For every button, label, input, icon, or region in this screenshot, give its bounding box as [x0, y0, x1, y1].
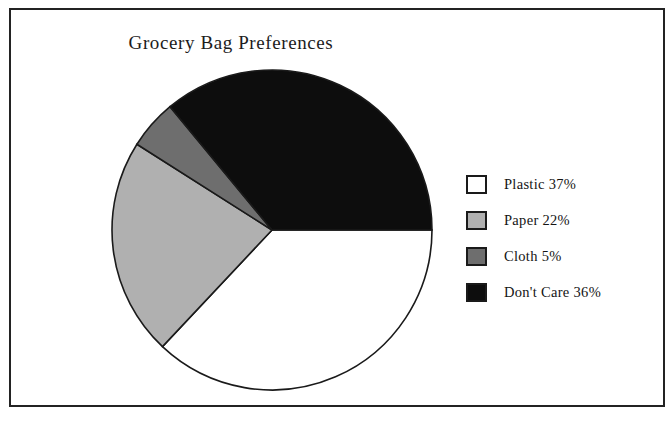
legend-item-cloth: Cloth 5%: [466, 238, 656, 274]
chart-frame: Grocery Bag Preferences Plastic 37%Paper…: [9, 8, 665, 407]
chart-title: Grocery Bag Preferences: [11, 32, 451, 54]
legend-swatch-dont-care: [466, 283, 487, 302]
legend-label-cloth: Cloth 5%: [504, 248, 562, 265]
legend-label-plastic: Plastic 37%: [504, 176, 576, 193]
legend-swatch-cloth: [466, 247, 487, 266]
page-edge: [0, 418, 672, 426]
legend-item-paper: Paper 22%: [466, 202, 656, 238]
legend-label-paper: Paper 22%: [504, 212, 570, 229]
legend-label-dont-care: Don't Care 36%: [504, 284, 601, 301]
pie-slice-group: [112, 70, 432, 390]
legend-swatch-paper: [466, 211, 487, 230]
legend-swatch-plastic: [466, 175, 487, 194]
chart-legend: Plastic 37%Paper 22%Cloth 5%Don't Care 3…: [466, 166, 656, 310]
pie-chart: [107, 65, 437, 395]
legend-item-dont-care: Don't Care 36%: [466, 274, 656, 310]
plot-area: Grocery Bag Preferences Plastic 37%Paper…: [11, 10, 663, 405]
legend-item-plastic: Plastic 37%: [466, 166, 656, 202]
